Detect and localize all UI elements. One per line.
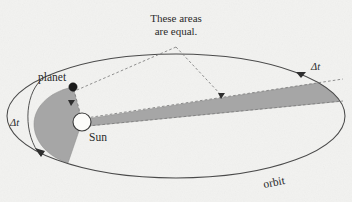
planet-body xyxy=(69,83,77,91)
caption-line-2: are equal. xyxy=(155,25,198,37)
sun-label: Sun xyxy=(89,131,107,143)
kepler-second-law-figure: These areas are equal. planet Sun orbit … xyxy=(0,0,352,202)
planet-label: planet xyxy=(38,71,67,84)
caption-line-1: These areas xyxy=(150,12,202,24)
diagram-canvas: These areas are equal. planet Sun orbit … xyxy=(0,0,352,202)
delta-t-right-arrowhead xyxy=(296,72,306,78)
sun-body xyxy=(73,113,91,131)
delta-t-left-arrowhead xyxy=(35,148,45,157)
delta-t-left-label: Δt xyxy=(9,117,20,128)
orbit-label: orbit xyxy=(262,174,286,190)
delta-t-right-label: Δt xyxy=(310,61,321,72)
swept-area-right xyxy=(86,79,346,126)
